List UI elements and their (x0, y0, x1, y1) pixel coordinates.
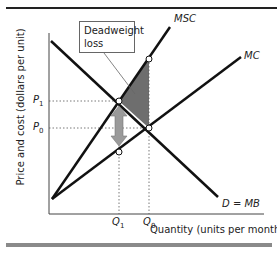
efficient-point (116, 98, 122, 104)
dwl-leader-line (104, 53, 135, 94)
deadweight-loss-label: Deadweight loss (79, 21, 135, 53)
bottom-rule (6, 243, 272, 247)
p0-tick-label: P0 (33, 121, 44, 135)
y-axis-label: Price and cost (dollars per unit) (15, 46, 26, 186)
msc-at-q0-point (146, 56, 152, 62)
msc-label: MSC (174, 13, 196, 24)
p1-tick-label: P1 (33, 94, 44, 108)
demand-label: D = MB (222, 198, 260, 209)
market-equilibrium-point (146, 125, 152, 131)
dwl-line2: loss (84, 37, 134, 50)
dwl-line1: Deadweight (84, 24, 134, 37)
demand-curve (51, 41, 218, 197)
q1-tick-label: Q1 (112, 216, 124, 230)
mc-at-q1-point (116, 149, 122, 155)
mc-label: MC (244, 50, 260, 61)
external-cost-arrow (111, 106, 127, 146)
x-axis-label: Quantity (units per month) (150, 224, 277, 235)
